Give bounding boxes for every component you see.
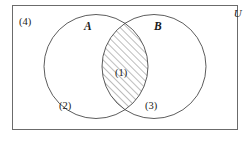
region-label-intersection: (1) [115, 68, 127, 79]
region-label-b-only: (3) [145, 101, 157, 112]
venn-diagram-figure: U (4) A B (1) (2) (3) [0, 0, 251, 145]
set-a-label: A [84, 21, 92, 33]
set-b-label: B [154, 21, 162, 33]
universal-set-label: U [234, 8, 242, 19]
region-label-outside: (4) [19, 17, 31, 28]
region-label-a-only: (2) [59, 101, 71, 112]
